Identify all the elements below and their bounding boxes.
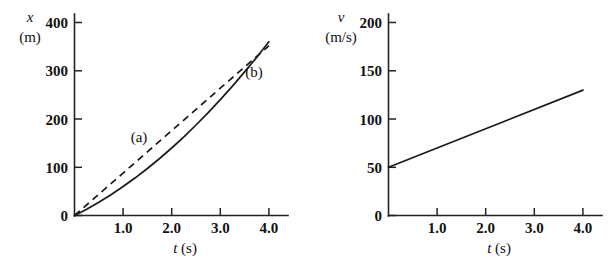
x-tick-label: 3.0 [525,220,544,236]
y-tick-label: 200 [360,15,383,31]
y-tick-label: 400 [46,15,69,31]
x-tick-label: 1.0 [428,220,447,236]
position-vs-time-svg: 0 100 200 300 400 1.0 2.0 3.0 4.0 x [0,0,305,266]
physics-figure-two-plots: 0 100 200 300 400 1.0 2.0 3.0 4.0 x [0,0,611,266]
series-b-label: (b) [245,64,263,81]
y-axis-title-unit: (m/s) [325,29,357,46]
y-tick-label: 100 [46,160,69,176]
velocity-vs-time-plot: 0 50 100 150 200 1.0 2.0 3.0 4.0 v [305,0,611,266]
series-a-dashed-line [75,46,270,216]
velocity-vs-time-svg: 0 50 100 150 200 1.0 2.0 3.0 4.0 v [305,0,611,266]
x-axis-title-right: t (s) [487,240,511,257]
series-velocity-line [389,90,584,167]
y-tick-labels-right: 0 50 100 150 200 [360,15,383,224]
x-tick-label: 3.0 [211,220,230,236]
y-tick-label: 100 [360,112,383,128]
position-vs-time-plot: 0 100 200 300 400 1.0 2.0 3.0 4.0 x [0,0,305,266]
x-tick-label: 2.0 [476,220,495,236]
x-axis-title-unit: (s) [495,240,511,257]
y-tick-label: 50 [367,160,382,176]
y-tick-label: 0 [61,208,69,224]
y-axis-title-variable: v [338,9,345,25]
x-ticks-right [437,208,583,216]
x-axis-title-left: t (s) [173,240,197,257]
series-a-label: (a) [131,129,148,146]
x-tick-label: 2.0 [162,220,181,236]
x-tick-label: 4.0 [574,220,593,236]
x-axis-title-unit: (s) [181,240,197,257]
y-axis-title-variable: x [26,9,34,25]
x-tick-labels-left: 1.0 2.0 3.0 4.0 [114,220,279,236]
x-ticks-left [123,208,269,216]
y-tick-label: 0 [375,208,383,224]
y-tick-label: 300 [46,63,69,79]
y-tick-labels-left: 0 100 200 300 400 [46,15,69,224]
x-tick-label: 4.0 [260,220,279,236]
x-tick-label: 1.0 [114,220,133,236]
y-ticks-right [389,23,397,216]
y-ticks-left [75,23,83,216]
y-tick-label: 150 [360,63,383,79]
y-axis-title-unit: (m) [19,29,41,46]
y-tick-label: 200 [46,112,69,128]
x-tick-labels-right: 1.0 2.0 3.0 4.0 [428,220,593,236]
